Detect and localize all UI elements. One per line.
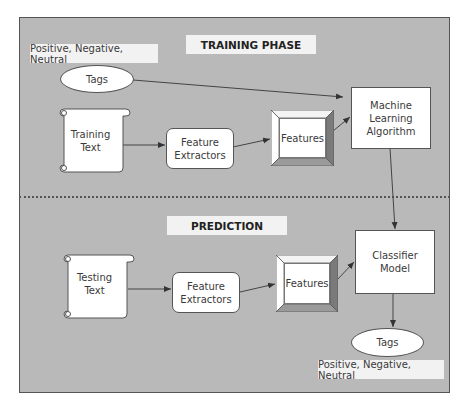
algo-line3: Algorithm: [367, 125, 416, 138]
edge-extractors-to-features: [233, 139, 270, 147]
classifier-line1: Classifier: [372, 249, 418, 262]
edge-features-to-algorithm: [333, 117, 350, 131]
edge-algorithm-to-classifier: [390, 148, 395, 229]
algo-line1: Machine: [370, 99, 412, 112]
training-text-node: Training Text: [58, 105, 132, 175]
extractor-line2: Extractors: [174, 149, 225, 162]
edge-tags-to-algorithm: [133, 80, 343, 97]
extractor-line1: Feature: [181, 136, 219, 149]
feature-extractors-prediction: Feature Extractors: [172, 272, 240, 313]
edge-extractors-to-features-pred: [240, 284, 275, 292]
edge-features-to-classifier: [337, 262, 354, 280]
testing-text-line2: Text: [62, 284, 127, 297]
algo-line2: Learning: [369, 112, 412, 125]
tags-node-training: Tags: [60, 65, 134, 93]
classifier-model-node: Classifier Model: [355, 230, 435, 294]
extractor-line2: Extractors: [180, 293, 231, 306]
machine-learning-algorithm-node: Machine Learning Algorithm: [351, 87, 431, 149]
features-node-prediction: Features: [276, 255, 338, 312]
feature-extractors-training: Feature Extractors: [166, 128, 234, 169]
extractor-line1: Feature: [187, 280, 225, 293]
classifier-line2: Model: [380, 262, 410, 275]
tags-node-prediction: Tags: [351, 328, 424, 357]
testing-text-line1: Testing: [62, 271, 127, 284]
training-text-line1: Training: [58, 128, 123, 141]
training-text-line2: Text: [58, 141, 123, 154]
features-node-training: Features: [271, 110, 334, 166]
testing-text-node: Testing Text: [62, 251, 136, 321]
